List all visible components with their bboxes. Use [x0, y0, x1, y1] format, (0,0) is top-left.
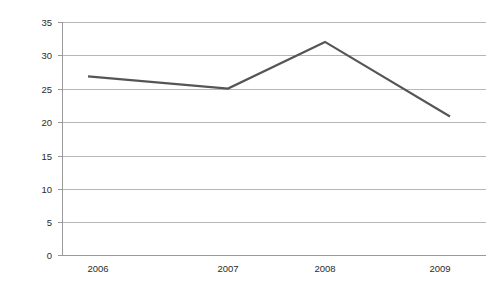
chart-background — [0, 0, 500, 287]
ytick-label-20: 20 — [41, 117, 52, 128]
ytick-label-10: 10 — [41, 184, 52, 195]
xtick-label-2009: 2009 — [429, 263, 450, 274]
line-chart-figure: 35 30 25 20 15 10 5 0 2006 2007 2008 200… — [0, 0, 500, 287]
xtick-label-2008: 2008 — [314, 263, 335, 274]
xtick-label-2006: 2006 — [87, 263, 108, 274]
ytick-label-15: 15 — [41, 151, 52, 162]
ytick-label-35: 35 — [41, 17, 52, 28]
chart-canvas: 35 30 25 20 15 10 5 0 2006 2007 2008 200… — [0, 0, 500, 287]
xtick-label-2007: 2007 — [217, 263, 238, 274]
ytick-label-30: 30 — [41, 50, 52, 61]
ytick-label-25: 25 — [41, 84, 52, 95]
ytick-label-5: 5 — [47, 217, 52, 228]
ytick-label-0: 0 — [47, 250, 52, 261]
